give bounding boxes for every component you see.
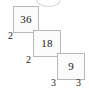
factor-tree-diagram: 36 18 9 2 2 3 3 — [0, 0, 89, 92]
divisor-label-2-second: 2 — [26, 55, 31, 65]
partial-ellipse-icon — [36, 0, 61, 7]
divisor-label-3-right: 3 — [76, 78, 81, 88]
divisor-label-3-left: 3 — [51, 78, 56, 88]
dividend-box-36: 36 — [13, 6, 39, 33]
divisor-label-2-first: 2 — [8, 31, 13, 41]
dividend-box-9: 9 — [57, 53, 85, 80]
